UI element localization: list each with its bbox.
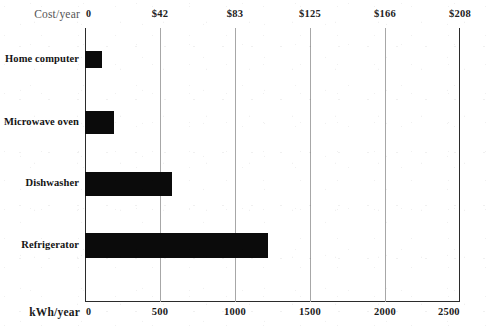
bar	[85, 111, 114, 134]
bottom-tick-label: 1500	[299, 306, 321, 317]
gridline	[385, 28, 386, 302]
plot-right-border	[459, 28, 460, 302]
gridline	[310, 28, 311, 302]
category-label: Refrigerator	[0, 239, 85, 250]
x-axis-line	[85, 301, 460, 302]
bottom-tick-label: 0	[86, 306, 91, 317]
top-tick-label: $83	[227, 8, 243, 19]
bar	[85, 233, 268, 258]
primary-axis-title-kwh: kWh/year	[14, 306, 80, 318]
bar	[85, 172, 172, 196]
category-label: Dishwasher	[0, 177, 85, 188]
category-label: Home computer	[0, 53, 85, 64]
bottom-tick-label: 2500	[438, 306, 460, 317]
top-tick-label: $125	[299, 8, 321, 19]
plot-area	[85, 28, 460, 302]
top-tick-label: $166	[374, 8, 396, 19]
category-label: Microwave oven	[0, 116, 85, 127]
gridline	[160, 28, 161, 302]
bottom-tick-label: 2000	[374, 306, 396, 317]
y-axis-line	[85, 28, 86, 302]
bar	[85, 51, 102, 68]
energy-cost-bar-chart: Cost/year 0$42$83$125$166$208 Home compu…	[0, 0, 487, 328]
secondary-axis-title-cost: Cost/year	[16, 8, 80, 20]
top-tick-label: 0	[86, 8, 91, 19]
top-tick-label: $42	[152, 8, 168, 19]
gridline	[235, 28, 236, 302]
bottom-tick-label: 1000	[224, 306, 246, 317]
top-tick-label: $208	[449, 8, 471, 19]
bottom-tick-label: 500	[152, 306, 168, 317]
